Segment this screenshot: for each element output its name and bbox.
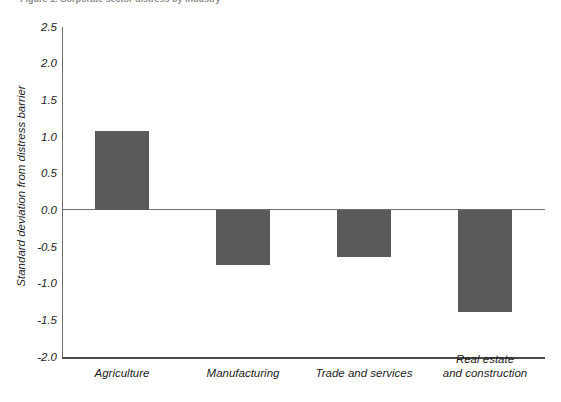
y-tick--2-0: -2.0 xyxy=(0,351,57,364)
y-tick-1-5: 1.5 xyxy=(0,94,57,107)
y-tick-0-5: 0.5 xyxy=(0,167,57,180)
y-axis-tick-labels: 2.52.01.51.00.50.0-0.5-1.0-1.5-2.0 xyxy=(0,0,57,402)
y-tick-label: -0.5 xyxy=(0,241,57,253)
y-tick-label: -1.5 xyxy=(0,314,57,326)
y-tick-1-0: 1.0 xyxy=(0,131,57,144)
y-tick-label: -1.0 xyxy=(0,277,57,289)
y-tick-2-0: 2.0 xyxy=(0,57,57,70)
bar-manufacturing xyxy=(216,210,270,264)
y-tick-label: -2.0 xyxy=(0,351,57,363)
plot-area xyxy=(63,27,545,357)
y-tick-label: 1.0 xyxy=(0,131,57,143)
figure-container: Figure 1. Corporate sector distress by i… xyxy=(0,0,561,402)
y-tick-label: 0.5 xyxy=(0,167,57,179)
figure-caption-sliver: Figure 1. Corporate sector distress by i… xyxy=(0,0,561,7)
y-tick-label: 1.5 xyxy=(0,94,57,106)
y-tick-2-5: 2.5 xyxy=(0,21,57,34)
y-tick--1-5: -1.5 xyxy=(0,314,57,327)
y-tick-0-0: 0.0 xyxy=(0,204,57,217)
bar-agriculture xyxy=(95,131,149,210)
bar-real-estate-and-construction xyxy=(458,210,512,311)
bar-trade-and-services xyxy=(337,210,391,256)
y-tick-label: 0.0 xyxy=(0,204,57,216)
y-tick-label: 2.5 xyxy=(0,21,57,33)
x-tick-label-real-estate-and-construction: Real estate and construction xyxy=(410,352,560,380)
y-tick-label: 2.0 xyxy=(0,57,57,69)
y-tick--0-5: -0.5 xyxy=(0,241,57,254)
y-tick--1-0: -1.0 xyxy=(0,277,57,290)
